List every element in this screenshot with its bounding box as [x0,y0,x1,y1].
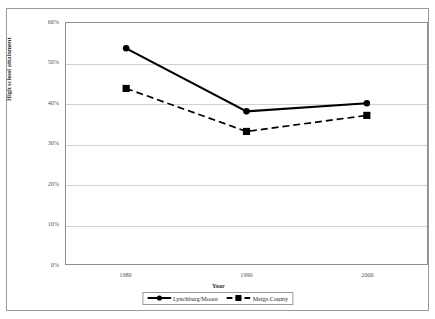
plot-area [65,22,428,265]
y-tick-label-40: 40% [19,100,59,106]
y-tick-label-60: 60% [19,19,59,25]
legend-label-meigs-county: Meigs County [253,295,288,302]
y-tick-label-0: 0% [19,262,59,268]
x-axis-title: Year [7,282,430,289]
series-plot [66,23,427,264]
y-tick-label-10: 10% [19,221,59,227]
legend-swatch-square-dashed-icon [227,294,251,302]
data-point [364,100,371,107]
y-axis-title: High school attainment [5,37,12,101]
legend-entry-meigs-county[interactable]: Meigs County [227,294,288,302]
data-point [123,45,130,52]
x-tick-label-1980: 1980 [96,271,156,278]
y-tick-label-30: 30% [19,140,59,146]
x-tick-label-1990: 1990 [217,271,277,278]
data-point [243,108,250,115]
x-tick-label-2000: 2000 [338,271,398,278]
y-tick-label-20: 20% [19,181,59,187]
data-point [243,128,250,135]
legend-entry-lynchburg-moore[interactable]: Lynchburg/Moore [147,294,218,302]
y-tick-label-50: 50% [19,59,59,65]
legend-swatch-circle-solid-icon [147,294,171,302]
series-markers-lynchburg-moore [123,45,370,115]
legend-label-lynchburg-moore: Lynchburg/Moore [173,295,218,302]
chart-legend: Lynchburg/Moore Meigs County [142,292,293,305]
chart-frame: High school attainment 60% 50% 40% 30% 2… [6,8,429,311]
data-point [123,85,130,92]
data-point [363,112,370,119]
